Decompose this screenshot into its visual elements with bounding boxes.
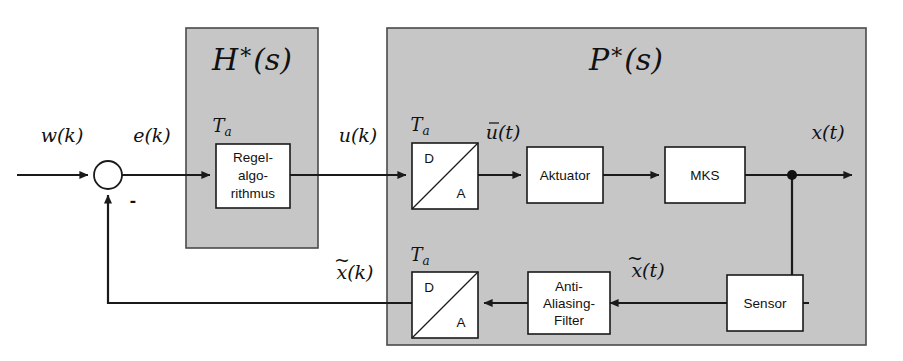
filter-line-2: Aliasing- bbox=[543, 296, 595, 311]
signal-label-measured-discrete-group: x(k) ~ bbox=[334, 248, 373, 283]
controller-algorithm-line-3: rithmus bbox=[231, 186, 276, 201]
summing-junction-minus-sign: - bbox=[130, 190, 136, 211]
da-converter-a-label: A bbox=[456, 186, 465, 201]
plant-label-P: P bbox=[588, 42, 610, 77]
mks-label: MKS bbox=[690, 168, 719, 183]
filter-line-3: Filter bbox=[554, 313, 585, 328]
signal-label-output: x(t) bbox=[811, 121, 844, 143]
plant-zone-label: P∗(s) bbox=[588, 39, 663, 77]
da-converter-d-label: D bbox=[424, 151, 434, 166]
signal-label-control-held: u(t) bbox=[486, 121, 521, 143]
controller-label-H: H bbox=[211, 42, 239, 77]
ad-converter-a-label: A bbox=[456, 315, 465, 330]
actuator-label: Aktuator bbox=[540, 168, 591, 183]
plant-label-star: ∗ bbox=[609, 39, 624, 64]
measured-discrete-tilde: ~ bbox=[334, 248, 350, 270]
signal-label-error: e(k) bbox=[133, 124, 171, 146]
signal-tap-dot bbox=[787, 170, 797, 180]
signal-label-reference: w(k) bbox=[41, 124, 84, 146]
summing-junction[interactable] bbox=[94, 161, 122, 189]
controller-algorithm-line-2: algo- bbox=[238, 168, 268, 183]
control-loop-diagram: H∗(s) P∗(s) Regel- algo- rithmus bbox=[0, 0, 903, 361]
sensor-label: Sensor bbox=[744, 296, 787, 311]
measured-continuous-tilde: ~ bbox=[627, 246, 643, 268]
signal-label-control-held-group: u(t) bbox=[486, 121, 521, 143]
signal-label-control-discrete: u(k) bbox=[339, 124, 378, 146]
block-diagram-canvas: H∗(s) P∗(s) Regel- algo- rithmus bbox=[0, 0, 903, 361]
controller-algorithm-line-1: Regel- bbox=[233, 150, 273, 165]
plant-label-paren: (s) bbox=[624, 42, 663, 77]
filter-line-1: Anti- bbox=[555, 279, 583, 294]
controller-label-star: ∗ bbox=[238, 39, 253, 64]
ad-converter-d-label: D bbox=[424, 280, 434, 295]
controller-label-paren: (s) bbox=[253, 42, 292, 77]
